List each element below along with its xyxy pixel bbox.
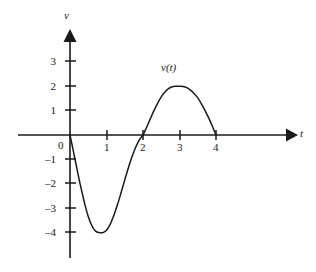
- origin-tick-label: 0: [58, 140, 64, 151]
- y-tick-label-neg1: –1: [37, 154, 56, 165]
- curve-label: v(t): [161, 62, 176, 73]
- y-tick-label-2: 2: [40, 81, 56, 92]
- y-tick-label-neg2: –2: [37, 178, 56, 189]
- y-tick-label-3: 3: [40, 56, 56, 67]
- y-tick-label-neg4: –4: [37, 227, 56, 238]
- x-tick-label-1: 1: [104, 142, 110, 153]
- x-tick-label-3: 3: [177, 142, 183, 153]
- x-axis-label: t: [300, 128, 303, 139]
- y-axis-label: v: [64, 10, 69, 21]
- x-tick-label-2: 2: [140, 142, 146, 153]
- y-tick-label-neg3: –3: [37, 203, 56, 214]
- y-axis-arrowhead: [64, 29, 77, 42]
- y-tick-label-1: 1: [40, 105, 56, 116]
- velocity-time-graph-figure: v t v(t) 0 1 2 3 4 3 2 1 –1 –2 –3 –4: [0, 0, 316, 272]
- velocity-curve: [70, 86, 216, 233]
- x-axis-arrowhead: [286, 129, 298, 142]
- x-tick-label-4: 4: [213, 142, 219, 153]
